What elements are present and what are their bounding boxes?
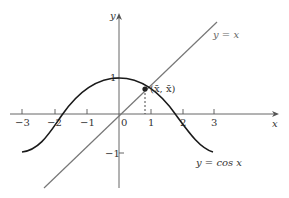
curve-cos-x xyxy=(22,78,213,152)
y-tick-label: −1 xyxy=(105,148,120,159)
plot: −3 −2 −1 0 1 2 3 1 −1 y x y = x y = cos … xyxy=(0,0,289,198)
x-tick-label: 3 xyxy=(211,117,217,128)
point-label: (x̄, x̄) xyxy=(150,83,176,94)
x-tick-label: −3 xyxy=(15,117,30,128)
x-ticks xyxy=(22,109,214,114)
y-axis-label: y xyxy=(109,10,116,21)
line-label: y = x xyxy=(212,29,239,40)
x-tick-label: 1 xyxy=(148,117,154,128)
x-axis-label: x xyxy=(272,118,278,129)
intersection-point xyxy=(142,86,147,91)
x-tick-label: 0 xyxy=(121,117,127,128)
curve-label: y = cos x xyxy=(195,157,242,168)
x-tick-label: −1 xyxy=(80,117,95,128)
